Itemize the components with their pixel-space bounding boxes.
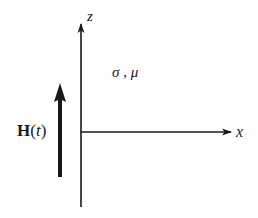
- field-label: H(t): [17, 121, 46, 140]
- field-close-paren: ): [41, 121, 47, 140]
- field-diagram: z x σ , μ H(t): [0, 0, 258, 218]
- parameter-separator: ,: [119, 64, 130, 80]
- z-axis-label: z: [86, 8, 93, 24]
- mu-symbol: μ: [130, 64, 139, 80]
- medium-label: σ , μ: [112, 64, 139, 80]
- medium-parameters: σ , μ: [112, 64, 139, 80]
- applied-field: H(t): [17, 83, 66, 177]
- x-axis-label: x: [235, 123, 243, 140]
- z-axis: z: [81, 8, 93, 207]
- field-symbol: H: [17, 121, 30, 140]
- x-axis: x: [81, 123, 243, 140]
